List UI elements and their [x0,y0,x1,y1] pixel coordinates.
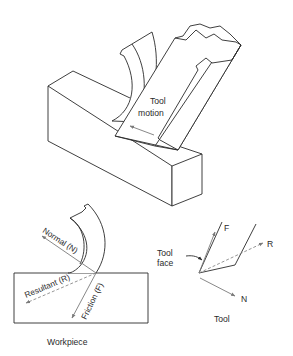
resultant-force-label: Resultant (R) [23,273,71,300]
chip-formation-diagram: Tool motion Normal (N) Resultant (R) Fri… [0,0,293,356]
tool-force-f-arrow [199,232,215,273]
tool-face-label-line2: face [157,258,173,268]
tool-force-n-label: N [241,294,247,304]
tool-force-r-label: R [267,239,273,249]
tool-face-label-line1: Tool [157,248,173,258]
tool-motion-label-line2: motion [138,108,164,118]
tool-face-pointer-arrow [186,256,202,260]
tool-force-f-label: F [224,223,229,233]
tool-motion-label-line1: Tool [150,96,166,106]
tool-force-n-arrow [200,278,235,296]
friction-force-label: Friction (F) [80,281,106,321]
normal-force-label: Normal (N) [41,226,80,255]
tool-caption: Tool [214,314,230,324]
chip-2d [68,204,105,273]
workpiece-caption: Workpiece [47,337,88,347]
